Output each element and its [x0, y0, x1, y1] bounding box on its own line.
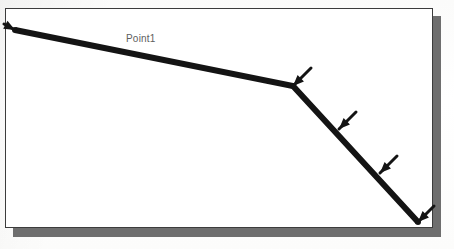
member-polyline[interactable]	[12, 27, 421, 225]
arrow-marker-group	[3, 21, 434, 222]
arrow-start-node	[3, 21, 15, 30]
arrow-mid-lower	[380, 156, 397, 173]
member-polyline[interactable]	[15, 30, 418, 222]
point1-label[interactable]: Point1	[126, 33, 156, 44]
diagram-stage: Point1	[0, 0, 454, 249]
arrow-mid-upper	[339, 112, 356, 129]
arrow-kink-node	[293, 68, 311, 86]
drawing-svg	[0, 0, 454, 249]
arrow-end-node	[418, 206, 434, 222]
